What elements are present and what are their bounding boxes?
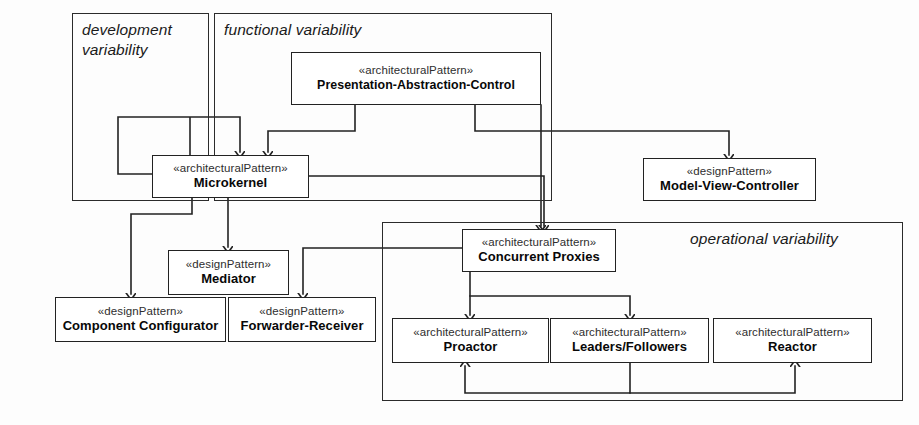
node-stereotype: «designPattern» <box>186 258 271 271</box>
node-stereotype: «architecturalPattern» <box>482 236 597 249</box>
node-stereotype: «architecturalPattern» <box>359 64 474 77</box>
node-title: Concurrent Proxies <box>478 250 600 265</box>
node-title: Presentation-Abstraction-Control <box>317 78 515 92</box>
node-mvc[interactable]: «designPattern»Model-View-Controller <box>643 158 816 201</box>
node-stereotype: «designPattern» <box>259 305 344 318</box>
node-pac[interactable]: «architecturalPattern»Presentation-Abstr… <box>291 52 541 105</box>
group-box-operational <box>382 222 903 401</box>
node-title: Component Configurator <box>63 319 219 334</box>
diagram-canvas: development variabilityfunctional variab… <box>0 0 919 425</box>
group-label-operational: operational variability <box>690 229 838 249</box>
node-forwarder-receiver[interactable]: «designPattern»Forwarder-Receiver <box>228 297 376 342</box>
node-stereotype: «designPattern» <box>98 305 183 318</box>
node-title: Mediator <box>201 272 256 287</box>
node-proactor[interactable]: «architecturalPattern»Proactor <box>392 318 549 363</box>
node-title: Forwarder-Receiver <box>240 319 363 334</box>
group-label-functional: functional variability <box>224 20 361 40</box>
node-stereotype: «architecturalPattern» <box>413 326 528 339</box>
node-concurrent-proxies[interactable]: «architecturalPattern»Concurrent Proxies <box>462 229 616 272</box>
node-leaders-followers[interactable]: «architecturalPattern»Leaders/Followers <box>550 318 709 363</box>
node-title: Reactor <box>768 340 817 355</box>
group-label-development: development variability <box>82 20 172 60</box>
node-title: Proactor <box>444 340 498 355</box>
node-stereotype: «architecturalPattern» <box>735 326 850 339</box>
node-stereotype: «designPattern» <box>687 165 772 178</box>
node-mediator[interactable]: «designPattern»Mediator <box>168 250 289 295</box>
node-stereotype: «architecturalPattern» <box>173 162 288 175</box>
node-component-configurator[interactable]: «designPattern»Component Configurator <box>55 297 226 342</box>
node-title: Model-View-Controller <box>660 179 799 194</box>
node-stereotype: «architecturalPattern» <box>572 326 687 339</box>
node-microkernel[interactable]: «architecturalPattern»Microkernel <box>152 155 309 198</box>
node-title: Leaders/Followers <box>572 340 687 355</box>
node-title: Microkernel <box>194 176 268 191</box>
node-reactor[interactable]: «architecturalPattern»Reactor <box>713 318 872 363</box>
